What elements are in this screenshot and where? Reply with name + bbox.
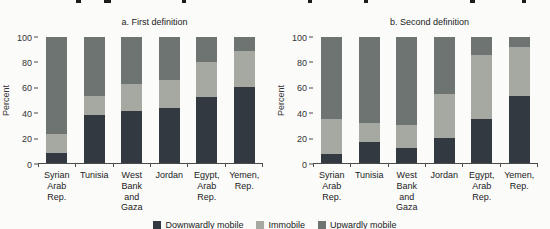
y-axis: 020406080100	[12, 37, 38, 164]
cropped-title-fragment	[470, 0, 475, 3]
bar-segment-immobile	[321, 119, 342, 154]
stacked-bar	[471, 37, 492, 163]
legend-label: Upwardly mobile	[330, 220, 397, 229]
x-label-tunisia: Tunisia	[351, 170, 389, 213]
legend: Downwardly mobileImmobileUpwardly mobile	[0, 220, 550, 229]
x-axis-ticks	[313, 164, 538, 167]
x-label-yemen-: Yemen, Rep.	[226, 170, 264, 213]
y-tick-label: 60	[22, 83, 32, 93]
bar-segment-upwardly-mobile	[46, 37, 67, 134]
bar-segment-downwardly-mobile	[396, 148, 417, 163]
cropped-title-fragment	[364, 0, 368, 3]
legend-swatch	[153, 221, 161, 229]
plot-bars	[38, 37, 263, 163]
legend-label: Immobile	[268, 220, 305, 229]
y-tick-0: 0	[12, 160, 38, 169]
x-label-tunisia: Tunisia	[76, 170, 114, 213]
bar-segment-downwardly-mobile	[121, 111, 142, 163]
y-tick-label: 80	[22, 57, 32, 67]
stacked-bar	[121, 37, 142, 163]
bar-segment-upwardly-mobile	[159, 37, 180, 80]
y-tick-label: 100	[292, 32, 307, 42]
stacked-bar	[321, 37, 342, 163]
x-label-egypt-: Egypt, Arab Rep.	[188, 170, 226, 213]
y-axis-title: Percent	[275, 37, 287, 164]
bar-segment-immobile	[434, 94, 455, 138]
y-tick-80: 80	[287, 58, 313, 67]
x-tick-mark	[462, 164, 463, 167]
bar-slot-syrian-arab	[313, 37, 351, 163]
x-tick-mark	[150, 164, 151, 167]
bar-segment-immobile	[159, 80, 180, 108]
y-axis: 020406080100	[287, 37, 313, 164]
bar-segment-upwardly-mobile	[471, 37, 492, 55]
y-tick-40: 40	[287, 109, 313, 118]
bar-slot-jordan	[151, 37, 189, 163]
bar-segment-downwardly-mobile	[359, 142, 380, 163]
x-tick-mark	[500, 164, 501, 167]
figure: a. First definition Percent 020406080100…	[0, 0, 550, 229]
bar-segment-downwardly-mobile	[471, 119, 492, 163]
bar-segment-immobile	[471, 55, 492, 119]
bar-slot-syrian-arab	[38, 37, 76, 163]
y-tick-label: 80	[297, 57, 307, 67]
bar-slot-tunisia	[351, 37, 389, 163]
bar-segment-upwardly-mobile	[196, 37, 217, 62]
bar-segment-upwardly-mobile	[321, 37, 342, 119]
bar-slot-yemen-	[226, 37, 264, 163]
y-tick-label: 0	[302, 159, 307, 169]
cropped-title-fragment	[104, 0, 111, 3]
bar-slot-egypt-	[463, 37, 501, 163]
y-tick-20: 20	[287, 134, 313, 143]
bar-segment-immobile	[396, 125, 417, 148]
x-tick-mark	[388, 164, 389, 167]
charts-row: a. First definition Percent 020406080100…	[0, 8, 550, 213]
plot-area	[38, 37, 263, 164]
bar-segment-upwardly-mobile	[359, 37, 380, 123]
bar-segment-upwardly-mobile	[84, 37, 105, 96]
bar-segment-immobile	[84, 96, 105, 115]
y-tick-100: 100	[287, 33, 313, 42]
y-tick-100: 100	[12, 33, 38, 42]
y-tick-label: 60	[297, 83, 307, 93]
legend-swatch	[318, 221, 326, 229]
bar-segment-upwardly-mobile	[434, 37, 455, 94]
legend-label: Downwardly mobile	[165, 220, 243, 229]
bar-segment-immobile	[196, 62, 217, 97]
x-tick-mark	[38, 164, 39, 167]
bar-segment-downwardly-mobile	[434, 138, 455, 163]
x-tick-mark	[187, 164, 188, 167]
stacked-bar	[159, 37, 180, 163]
y-tick-60: 60	[12, 83, 38, 92]
legend-item-immobile: Immobile	[256, 220, 305, 229]
bar-slot-west-bank	[113, 37, 151, 163]
bar-slot-yemen-	[501, 37, 539, 163]
chart-body: Percent 020406080100	[275, 37, 550, 164]
bar-segment-downwardly-mobile	[509, 96, 530, 163]
x-tick-mark	[262, 164, 263, 167]
x-label-west-bank: West Bank and Gaza	[113, 170, 151, 213]
stacked-bar	[434, 37, 455, 163]
cropped-title-fragment	[182, 0, 186, 3]
y-tick-60: 60	[287, 83, 313, 92]
x-label-jordan: Jordan	[151, 170, 189, 213]
chart-body: Percent 020406080100	[0, 37, 275, 164]
y-tick-20: 20	[12, 134, 38, 143]
stacked-bar	[46, 37, 67, 163]
x-label-syrian-arab: Syrian Arab Rep.	[38, 170, 76, 213]
x-tick-mark	[537, 164, 538, 167]
bar-segment-downwardly-mobile	[84, 115, 105, 163]
bar-slot-west-bank	[388, 37, 426, 163]
x-tick-mark	[313, 164, 314, 167]
bar-segment-immobile	[509, 47, 530, 96]
bar-segment-downwardly-mobile	[159, 108, 180, 163]
x-axis-ticks	[38, 164, 263, 167]
x-tick-mark	[113, 164, 114, 167]
cropped-title-fragment	[308, 0, 312, 3]
y-tick-40: 40	[12, 109, 38, 118]
bar-segment-downwardly-mobile	[321, 154, 342, 163]
y-tick-80: 80	[12, 58, 38, 67]
x-tick-mark	[75, 164, 76, 167]
bar-segment-upwardly-mobile	[509, 37, 530, 47]
bar-segment-downwardly-mobile	[234, 87, 255, 163]
